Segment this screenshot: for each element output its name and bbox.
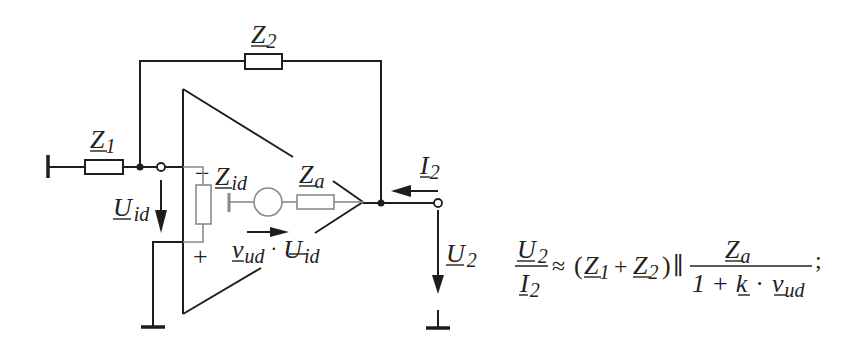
input-path: Z1 [48, 125, 183, 178]
source-label: vud·Uid [232, 235, 321, 267]
uid-voltage: Uid [113, 180, 167, 233]
opamp-top-edge-tip [333, 181, 363, 202]
z2-label: Z2 [251, 20, 276, 52]
z2-resistor [245, 54, 282, 69]
inverting-terminal-icon [157, 163, 165, 171]
feedback-path: Z2 [140, 20, 381, 203]
formula-plus: + [614, 253, 628, 279]
opamp-top-edge [183, 89, 293, 157]
uid-arrow-head-icon [155, 210, 167, 233]
voltage-source-icon [254, 188, 282, 216]
u2-label: U2 [446, 239, 477, 271]
opamp-internal-model: Zid Za vud·Uid [183, 160, 363, 267]
zid-bottom-wire [183, 224, 203, 242]
zid-resistor [196, 185, 211, 224]
i2-arrow-head-icon [391, 185, 411, 197]
formula-terminator: ; [815, 247, 822, 273]
z1-resistor [85, 160, 123, 174]
feedback-wire-left [140, 61, 245, 167]
formula-approx: ≈ [552, 253, 565, 279]
feedback-wire-right [282, 61, 381, 203]
zid-label: Zid [215, 162, 248, 194]
formula-rhs-numerator: Za [725, 235, 750, 267]
formula-parallel: ∥ [673, 253, 684, 279]
impedance-formula: U2 I2 ≈ ( Z1 + Z2 ) ∥ Za 1+k·vud ; [515, 235, 822, 301]
formula-close-paren: ) [662, 251, 671, 280]
u2-arrow-head-icon [432, 275, 444, 294]
formula-open-paren: ( [574, 251, 583, 280]
z1-label: Z1 [90, 125, 115, 157]
inverting-node-dot [137, 164, 144, 171]
formula-lhs-denominator: I2 [519, 269, 540, 301]
opamp-bottom-edge [183, 268, 261, 314]
formula-lhs-numerator: U2 [517, 235, 548, 267]
circuit-diagram: Z2 Z1 Uid − + [0, 0, 862, 344]
uid-label: Uid [113, 193, 150, 225]
i2-label: I2 [419, 151, 440, 183]
formula-z2: Z2 [633, 251, 658, 283]
output-node-dot [378, 200, 385, 207]
formula-z1: Z1 [584, 251, 609, 283]
noninverting-path [141, 242, 183, 327]
output-terminal-icon [434, 199, 442, 207]
formula-rhs-denominator: 1+k·vud [692, 269, 805, 301]
noninv-ground-wire [153, 242, 183, 327]
za-resistor [297, 195, 334, 209]
za-label: Za [299, 160, 324, 192]
plus-sign: + [193, 242, 208, 271]
